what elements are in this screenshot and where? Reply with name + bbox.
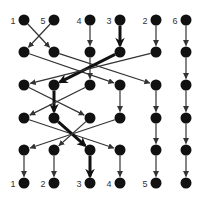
node-r1-c2 xyxy=(85,47,96,58)
node-r0-c2 xyxy=(85,15,96,26)
nodes-layer xyxy=(19,15,192,189)
node-r1-c4 xyxy=(151,47,162,58)
node-r1-c3 xyxy=(115,47,126,58)
bottom-output-label-4: 5 xyxy=(143,179,148,189)
node-r2-c4 xyxy=(151,80,162,91)
node-r0-c5 xyxy=(181,15,192,26)
node-r5-c4 xyxy=(151,178,162,189)
node-r0-c3 xyxy=(115,15,126,26)
bottom-output-label-3: 4 xyxy=(107,179,112,189)
node-r2-c3 xyxy=(115,80,126,91)
bottom-output-label-2: 3 xyxy=(77,179,82,189)
node-r4-c0 xyxy=(19,145,30,156)
node-r4-c4 xyxy=(151,145,162,156)
highlighted-edge-arrow xyxy=(60,54,115,82)
node-r5-c1 xyxy=(49,178,60,189)
node-r3-c0 xyxy=(19,113,30,124)
node-r2-c5 xyxy=(181,80,192,91)
network-graph: 15432612345 xyxy=(0,0,204,205)
node-r4-c5 xyxy=(181,145,192,156)
edges-layer xyxy=(24,24,186,176)
node-r0-c0 xyxy=(19,15,30,26)
bottom-output-label-1: 2 xyxy=(41,179,46,189)
top-input-label-1: 5 xyxy=(41,16,46,26)
node-r5-c2 xyxy=(85,178,96,189)
node-r0-c4 xyxy=(151,15,162,26)
node-r3-c4 xyxy=(151,113,162,124)
node-r4-c3 xyxy=(115,145,126,156)
labels-layer: 15432612345 xyxy=(11,16,178,189)
node-r5-c5 xyxy=(181,178,192,189)
node-r1-c5 xyxy=(181,47,192,58)
top-input-label-5: 6 xyxy=(173,16,178,26)
node-r1-c0 xyxy=(19,47,30,58)
bottom-output-label-0: 1 xyxy=(11,179,16,189)
node-r4-c2 xyxy=(85,145,96,156)
top-input-label-4: 2 xyxy=(143,16,148,26)
node-r3-c5 xyxy=(181,113,192,124)
node-r3-c3 xyxy=(115,113,126,124)
node-r0-c1 xyxy=(49,15,60,26)
top-input-label-0: 1 xyxy=(11,16,16,26)
node-r3-c2 xyxy=(85,113,96,124)
node-r2-c0 xyxy=(19,80,30,91)
node-r5-c3 xyxy=(115,178,126,189)
node-r4-c1 xyxy=(49,145,60,156)
node-r3-c1 xyxy=(49,113,60,124)
top-input-label-3: 3 xyxy=(107,16,112,26)
sorting-network-diagram: 15432612345 xyxy=(0,0,204,205)
top-input-label-2: 4 xyxy=(77,16,82,26)
node-r5-c0 xyxy=(19,178,30,189)
node-r2-c2 xyxy=(85,80,96,91)
node-r1-c1 xyxy=(49,47,60,58)
node-r2-c1 xyxy=(49,80,60,91)
